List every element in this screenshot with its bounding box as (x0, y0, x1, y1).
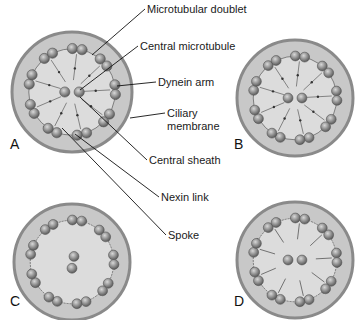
cilium-C (14, 204, 130, 320)
label-nexin-link: Nexin link (161, 191, 209, 203)
panel-label-C: C (10, 293, 20, 309)
label-microtubular-doublet: Microtubular doublet (147, 3, 247, 15)
label-dynein-arm: Dynein arm (158, 76, 214, 88)
cilium-B (237, 40, 353, 156)
label-spoke: Spoke (168, 229, 199, 241)
cilium-D (237, 202, 353, 318)
cilium-A (12, 32, 132, 152)
label-ciliary-membrane-2: membrane (167, 120, 220, 132)
panel-label-A: A (10, 136, 19, 152)
label-central-sheath: Central sheath (149, 154, 221, 166)
panel-label-B: B (234, 136, 243, 152)
label-ciliary-membrane-1: Ciliary (167, 107, 198, 119)
label-central-microtubule: Central microtubule (140, 40, 235, 52)
panel-label-D: D (234, 293, 244, 309)
